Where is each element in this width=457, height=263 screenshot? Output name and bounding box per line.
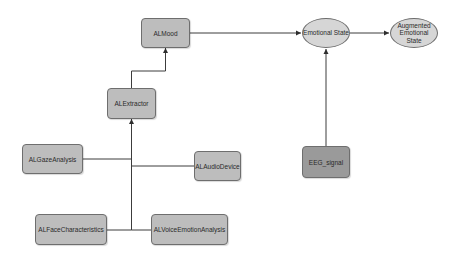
node-alvoiceemotionanalysis[interactable]: ALVoiceEmotionAnalysis <box>151 214 228 245</box>
node-algazeanalysis[interactable]: ALGazeAnalysis <box>22 144 83 174</box>
node-label: Emotional State <box>303 29 349 37</box>
node-almood[interactable]: ALMood <box>141 18 190 48</box>
edge-extractor-to-mood <box>132 48 166 88</box>
node-label: ALFaceCharacteristics <box>38 226 103 233</box>
node-label: ALVoiceEmotionAnalysis <box>154 226 225 233</box>
node-alaudiodevice[interactable]: ALAudioDevice <box>194 151 241 181</box>
diagram-canvas: ALMood ALExtractor Emotional State Augme… <box>0 0 457 263</box>
node-label: ALGazeAnalysis <box>29 156 77 163</box>
node-alextractor[interactable]: ALExtractor <box>107 88 156 119</box>
node-label: ALMood <box>153 30 177 37</box>
node-label: Augmented Emotional State <box>393 22 435 45</box>
node-label: EEG_signal <box>309 159 343 166</box>
node-augmented-emotional-state[interactable]: Augmented Emotional State <box>390 18 438 48</box>
node-eeg-signal[interactable]: EEG_signal <box>302 146 350 178</box>
node-label: ALExtractor <box>115 100 149 107</box>
node-label: ALAudioDevice <box>195 163 239 170</box>
node-emotional-state[interactable]: Emotional State <box>302 18 350 48</box>
node-alfacecharacteristics[interactable]: ALFaceCharacteristics <box>35 214 107 245</box>
